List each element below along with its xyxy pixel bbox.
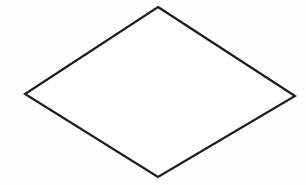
figure-canvas <box>0 0 306 185</box>
rhombus-shape <box>25 7 295 177</box>
rhombus-svg <box>0 0 306 185</box>
